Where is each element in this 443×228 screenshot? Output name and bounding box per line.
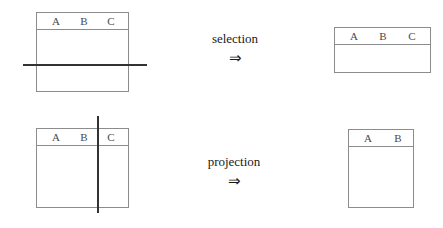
selection-input-table-header: A B C [37, 13, 128, 30]
column-header-b: B [369, 29, 397, 44]
selection-output-table: A B C [334, 27, 431, 73]
column-header-a: A [340, 29, 368, 44]
selection-input-table-body [37, 30, 128, 91]
projection-input-table: A B C [36, 128, 129, 208]
column-header-c: C [97, 130, 125, 145]
projection-input-table-body [37, 146, 128, 207]
selection-horizontal-rule [23, 64, 147, 66]
projection-output-table-body [349, 147, 413, 207]
column-header-b: B [70, 130, 98, 145]
column-header-c: C [97, 14, 125, 29]
column-header-b: B [385, 131, 411, 146]
selection-output-table-body [335, 45, 430, 72]
selection-operator-label: selection [185, 31, 285, 47]
selection-output-table-header: A B C [335, 28, 430, 45]
projection-input-table-header: A B C [37, 129, 128, 146]
column-header-c: C [398, 29, 426, 44]
column-header-a: A [355, 131, 381, 146]
projection-operator-arrow: ⇒ [184, 172, 284, 190]
relational-algebra-diagram: A B C selection ⇒ A B C A B C projection… [0, 0, 443, 228]
selection-input-table: A B C [36, 12, 129, 92]
projection-vertical-rule [97, 116, 99, 213]
selection-operator-arrow: ⇒ [185, 49, 285, 67]
column-header-b: B [70, 14, 98, 29]
projection-output-table: A B [348, 129, 414, 208]
column-header-a: A [42, 14, 70, 29]
column-header-a: A [42, 130, 70, 145]
projection-operator-label: projection [184, 154, 284, 170]
projection-output-table-header: A B [349, 130, 413, 147]
